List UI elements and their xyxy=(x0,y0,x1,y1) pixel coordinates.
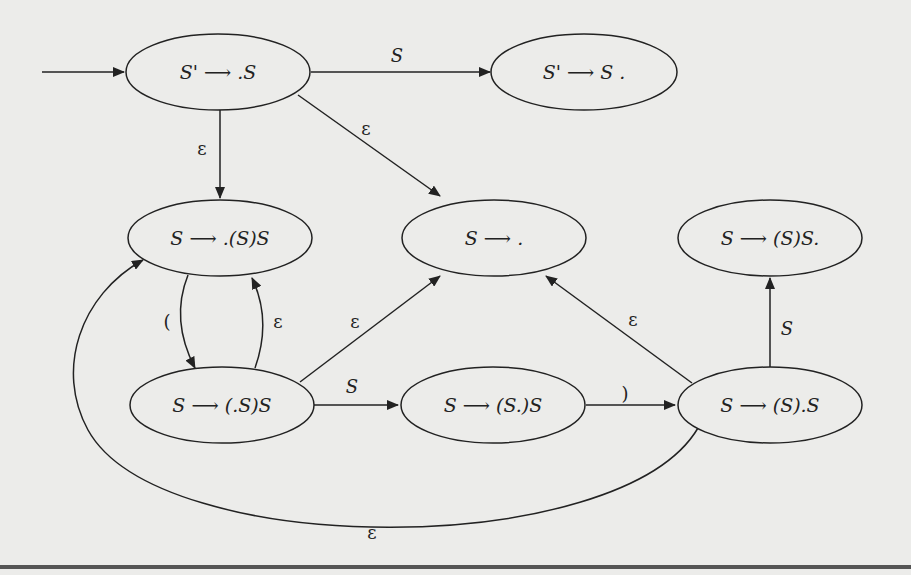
edge-label-n5-n3: ε xyxy=(350,311,359,332)
edge-label-n7-n2: ε xyxy=(367,522,376,543)
edge-label-n7-n3: ε xyxy=(628,309,637,330)
edge-label-n5-n6: S xyxy=(346,376,358,397)
state-n0-label: S' ⟶ .S xyxy=(180,61,257,83)
edge-label-n0-n2: ε xyxy=(197,138,206,159)
lr0-nfa-diagram: S' ⟶ .S S' ⟶ S . S ⟶ .(S)S S ⟶ . S ⟶ (S)… xyxy=(0,0,911,575)
edge-n0-n3 xyxy=(298,95,440,196)
edge-label-n7-n4: S xyxy=(781,318,793,339)
edge-label-n5-n2: ε xyxy=(273,311,282,332)
state-n5-label: S ⟶ (.S)S xyxy=(172,394,271,416)
edge-label-n0-n1: S xyxy=(391,45,403,66)
edge-n2-n5 xyxy=(180,275,195,368)
state-n1-label: S' ⟶ S . xyxy=(543,61,626,83)
state-n6-label: S ⟶ (S.)S xyxy=(444,394,543,416)
state-n7-label: S ⟶ (S).S xyxy=(720,394,819,416)
state-n3-label: S ⟶ . xyxy=(465,227,523,249)
edge-n7-n3 xyxy=(546,276,692,383)
edge-label-n6-n7: ) xyxy=(621,383,628,404)
state-n2-label: S ⟶ .(S)S xyxy=(170,227,269,249)
edge-n5-n2 xyxy=(252,278,263,368)
bottom-rule xyxy=(0,565,911,569)
edge-label-n0-n3: ε xyxy=(361,118,370,139)
state-n4-label: S ⟶ (S)S. xyxy=(721,227,820,249)
edge-label-n2-n5: ( xyxy=(163,311,170,332)
edge-n5-n3 xyxy=(300,276,440,382)
